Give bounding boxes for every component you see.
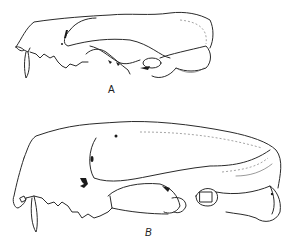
panel-label-a: A [108, 84, 115, 95]
skull-a-drawing [16, 12, 213, 78]
figure: A B [0, 0, 297, 252]
panel-label-b: B [145, 227, 152, 238]
skull-b-drawing [13, 121, 281, 232]
skull-drawings [0, 0, 297, 252]
